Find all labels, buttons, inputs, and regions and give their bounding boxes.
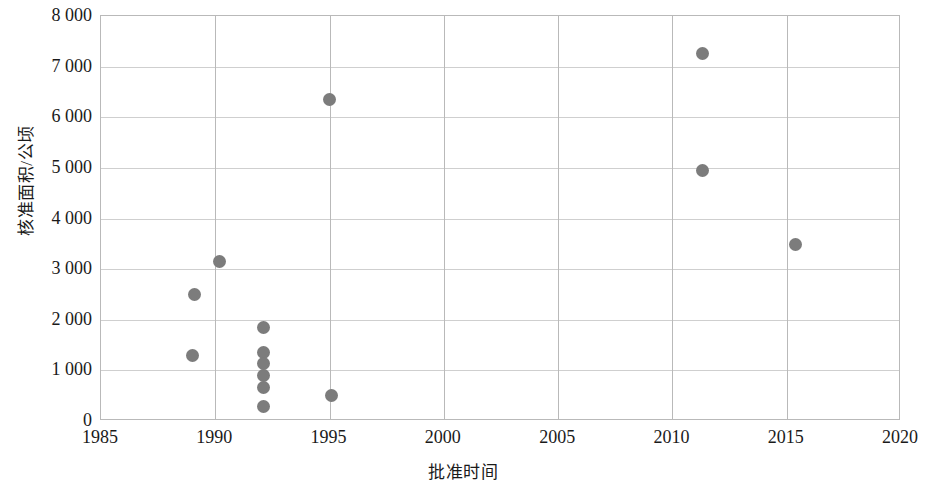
- x-tick-label: 2015: [741, 428, 831, 446]
- x-axis-tick-labels: 19851990199520002005201020152020: [0, 0, 926, 486]
- x-tick-label: 1995: [284, 428, 374, 446]
- x-tick-label: 1985: [55, 428, 145, 446]
- x-tick-label: 2000: [398, 428, 488, 446]
- x-axis-title: 批准时间: [0, 458, 926, 483]
- scatter-chart: 核准面积/公顷 01 0002 0003 0004 0005 0006 0007…: [0, 0, 926, 486]
- x-tick-label: 2020: [855, 428, 926, 446]
- x-tick-label: 2005: [512, 428, 602, 446]
- x-tick-label: 2010: [626, 428, 716, 446]
- x-tick-label: 1990: [169, 428, 259, 446]
